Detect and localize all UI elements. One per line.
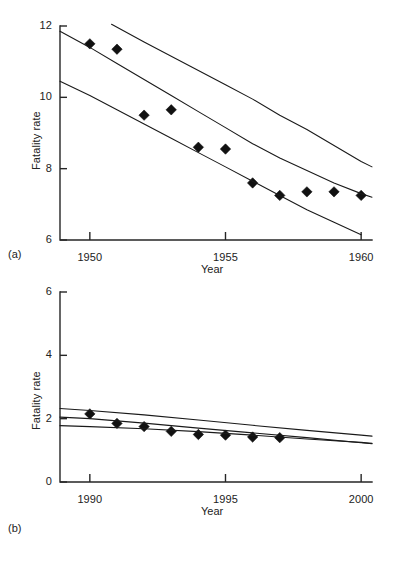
panel-a-label: (a) bbox=[8, 248, 21, 260]
panel-b-x-axis-title: Year bbox=[201, 505, 223, 517]
chart-panel-a: 6 8 10 12 1950 1955 1960 Fatality rate Y… bbox=[0, 0, 399, 282]
band-curve bbox=[60, 409, 372, 437]
band-curve bbox=[60, 31, 372, 197]
chart-panel-b: 0 2 4 6 1990 1995 2000 Fatality rate Yea… bbox=[0, 282, 399, 564]
data-point-marker bbox=[139, 110, 149, 120]
data-point-marker bbox=[166, 105, 176, 115]
panel-b-xtick-label: 2000 bbox=[336, 494, 386, 505]
panel-a-plot-area bbox=[0, 0, 399, 282]
panel-a-xtick-label: 1955 bbox=[200, 252, 250, 263]
panel-b-plot-area bbox=[0, 282, 399, 564]
data-point-marker bbox=[302, 187, 312, 197]
panel-a-xtick-label: 1950 bbox=[65, 252, 115, 263]
panel-b-y-axis-title: Fatality rate bbox=[30, 371, 42, 430]
band-curve bbox=[112, 24, 372, 167]
band-curve bbox=[60, 426, 372, 444]
data-point-marker bbox=[329, 187, 339, 197]
panel-a-ytick-label: 12 bbox=[24, 20, 52, 31]
data-point-marker bbox=[166, 426, 176, 436]
panel-a-x-axis-title: Year bbox=[201, 263, 223, 275]
panel-b-ytick-label: 4 bbox=[24, 349, 52, 360]
panel-a-ytick-label: 10 bbox=[24, 91, 52, 102]
panel-a-ytick-label: 6 bbox=[24, 234, 52, 245]
panel-b-ytick-label: 0 bbox=[24, 476, 52, 487]
panel-a-xtick-label: 1960 bbox=[336, 252, 386, 263]
band-curve bbox=[60, 81, 361, 234]
panel-b-label: (b) bbox=[8, 522, 21, 534]
panel-b-xtick-label: 1995 bbox=[200, 494, 250, 505]
data-point-marker bbox=[112, 44, 122, 54]
panel-b-ytick-label: 6 bbox=[24, 286, 52, 297]
panel-a-y-axis-title: Fatality rate bbox=[30, 111, 42, 170]
data-point-marker bbox=[193, 429, 203, 439]
data-point-marker bbox=[220, 144, 230, 154]
panel-b-xtick-label: 1990 bbox=[65, 494, 115, 505]
data-point-marker bbox=[220, 430, 230, 440]
fatality-rate-figure: 6 8 10 12 1950 1955 1960 Fatality rate Y… bbox=[0, 0, 399, 564]
